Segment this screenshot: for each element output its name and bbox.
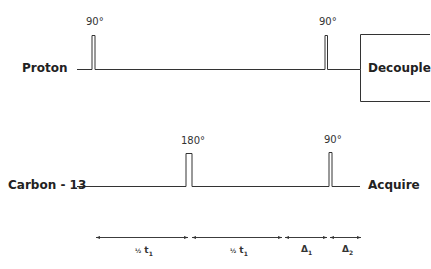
carbon-label: Carbon - 13 [8,178,86,192]
interval-delta-2: Δ2 [342,244,353,256]
interval-half-t1-b: ½ t1 [230,245,248,257]
carbon-trace [77,153,360,187]
carbon-pulse-1-angle: 180° [181,135,205,146]
decouple-label: Decouple [368,61,431,75]
proton-pulse-1-angle: 90° [86,16,104,27]
interval-delta-1: Δ1 [301,244,312,256]
proton-label: Proton [22,61,67,75]
interval-half-t1-a: ½ t1 [135,245,153,257]
carbon-pulse-2-angle: 90° [324,134,342,145]
acquire-label: Acquire [368,178,420,192]
proton-pulse-2-angle: 90° [319,16,337,27]
